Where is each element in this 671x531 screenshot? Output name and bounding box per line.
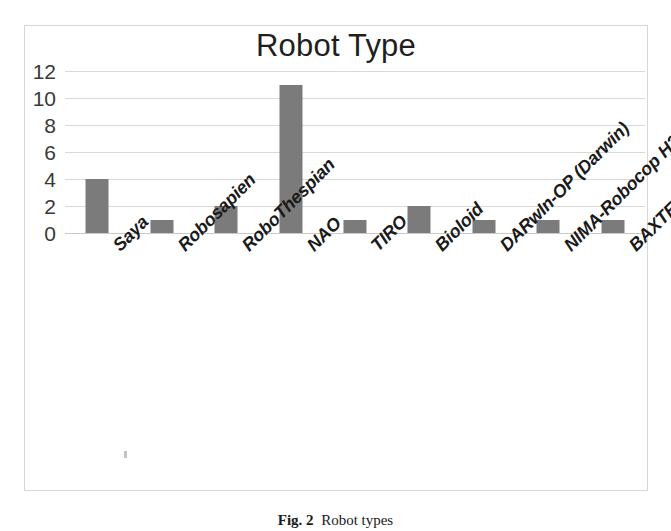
x-category-label: RoboThespian <box>238 241 253 256</box>
x-category-label: Bioloid <box>431 241 446 256</box>
x-category-label: NIMA-Robocop H21 version of NAO <box>560 241 575 256</box>
figure-container: Robot Type 024681012 SayaRobosapienRoboT… <box>0 0 671 531</box>
x-category-label: TIRO <box>367 241 382 256</box>
x-category-label: DARwIn-OP (Darwin) <box>496 241 511 256</box>
x-category-label: Saya <box>109 241 124 256</box>
x-category-label: BAXTER <box>625 241 640 256</box>
x-category-label: NAO <box>303 241 318 256</box>
figure-caption-text: Robot types <box>321 512 393 528</box>
figure-caption: Fig. 2 Robot types <box>0 512 671 529</box>
x-axis-category-labels: SayaRobosapienRoboThespianNAOTIROBioloid… <box>25 26 647 490</box>
chart-frame: Robot Type 024681012 SayaRobosapienRoboT… <box>24 25 648 491</box>
scan-artifact-speck <box>124 451 127 458</box>
x-category-label: Robosapien <box>174 241 189 256</box>
figure-caption-label: Fig. 2 <box>278 512 314 528</box>
